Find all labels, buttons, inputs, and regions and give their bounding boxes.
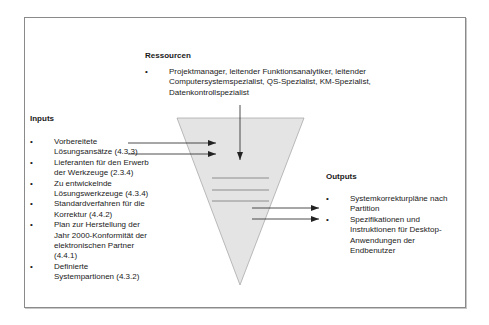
resource-item: • Projektmanager, leitender Funktionsana… xyxy=(145,67,445,98)
bullet: • xyxy=(30,262,33,272)
input-item: • Vorbereitete Lösungsansätze (4.3.3) xyxy=(30,137,160,158)
bullet: • xyxy=(326,194,329,204)
input-item: • Zu entwickelnde Lösungswerkzeuge (4.3.… xyxy=(30,179,160,200)
output-item: • Spezifikationen und Instruktionen für … xyxy=(326,215,461,257)
bullet: • xyxy=(30,158,33,168)
bullet: • xyxy=(30,137,33,147)
resources-list: • Projektmanager, leitender Funktionsana… xyxy=(145,67,445,98)
outputs-heading: Outputs xyxy=(326,172,357,181)
inputs-list: • Vorbereitete Lösungsansätze (4.3.3) • … xyxy=(30,137,160,283)
input-item: • Plan zur Herstellung der Jahr 2000-Kon… xyxy=(30,220,160,262)
input-item: • Lieferanten für den Erwerb der Werkzeu… xyxy=(30,158,160,179)
bullet: • xyxy=(30,179,33,189)
bullet: • xyxy=(145,67,148,77)
bullet: • xyxy=(30,220,33,230)
input-item: • Definierte Systempartionen (4.3.2) xyxy=(30,262,160,283)
output-item: • Systemkorrekturpläne nach Partition xyxy=(326,194,461,215)
resources-heading: Ressourcen xyxy=(145,51,191,60)
bullet: • xyxy=(326,215,329,225)
inputs-heading: Inputs xyxy=(30,114,54,123)
bullet: • xyxy=(30,199,33,209)
input-item: • Standardverfahren für die Korrektur (4… xyxy=(30,199,160,220)
outputs-list: • Systemkorrekturpläne nach Partition • … xyxy=(326,194,461,256)
